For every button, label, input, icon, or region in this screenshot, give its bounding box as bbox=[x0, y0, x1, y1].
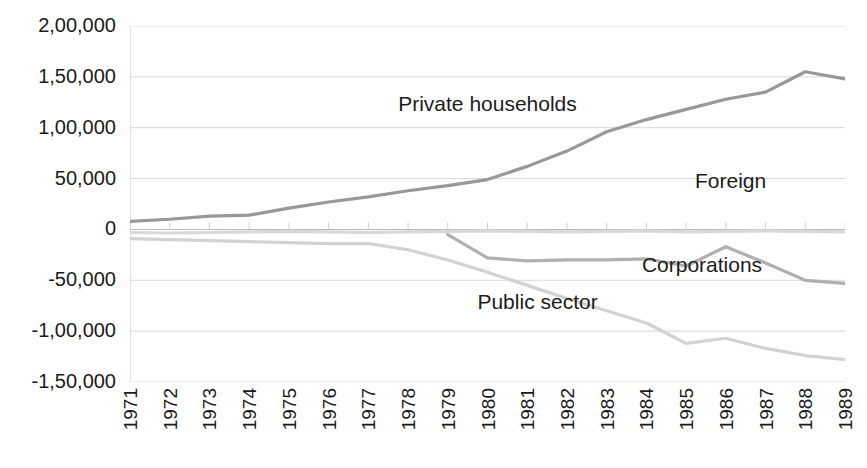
x-axis-tick-label: 1988 bbox=[795, 388, 817, 430]
y-axis-tick-label: -1,50,000 bbox=[0, 371, 116, 391]
line-chart: 2,00,0001,50,0001,00,00050,0000-50,000-1… bbox=[0, 0, 867, 468]
x-axis: 1971197219731974197519761977197819791980… bbox=[130, 388, 845, 468]
x-axis-tick-label: 1982 bbox=[557, 388, 579, 430]
y-axis: 2,00,0001,50,0001,00,00050,0000-50,000-1… bbox=[0, 0, 116, 468]
y-axis-tick-label: -50,000 bbox=[0, 269, 116, 289]
series-label: Corporations bbox=[642, 253, 762, 277]
y-axis-tick-label: 0 bbox=[0, 218, 116, 238]
x-axis-tick-label: 1985 bbox=[676, 388, 698, 430]
y-axis-tick-label: -1,00,000 bbox=[0, 320, 116, 340]
x-axis-tick-label: 1972 bbox=[160, 388, 182, 430]
plot-area bbox=[130, 26, 845, 382]
x-axis-tick-label: 1974 bbox=[239, 388, 261, 430]
series-line bbox=[130, 231, 845, 233]
x-axis-tick-label: 1986 bbox=[716, 388, 738, 430]
x-axis-tick-label: 1979 bbox=[438, 388, 460, 430]
x-axis-tick-label: 1978 bbox=[398, 388, 420, 430]
y-axis-tick-label: 1,50,000 bbox=[0, 66, 116, 86]
x-axis-tick-label: 1981 bbox=[517, 388, 539, 430]
plot-svg bbox=[130, 26, 845, 382]
x-axis-tick-label: 1983 bbox=[597, 388, 619, 430]
series-label: Public sector bbox=[477, 290, 597, 314]
x-axis-tick-label: 1976 bbox=[319, 388, 341, 430]
x-axis-tick-label: 1977 bbox=[358, 388, 380, 430]
series-label: Foreign bbox=[695, 169, 766, 193]
series-label: Private households bbox=[398, 92, 577, 116]
x-axis-tick-label: 1971 bbox=[120, 388, 142, 430]
y-axis-tick-label: 1,00,000 bbox=[0, 117, 116, 137]
x-axis-tick-label: 1980 bbox=[478, 388, 500, 430]
x-axis-tick-label: 1987 bbox=[756, 388, 778, 430]
y-axis-tick-label: 50,000 bbox=[0, 168, 116, 188]
y-axis-tick-label: 2,00,000 bbox=[0, 15, 116, 35]
x-axis-tick-label: 1973 bbox=[199, 388, 221, 430]
x-axis-tick-label: 1975 bbox=[279, 388, 301, 430]
x-axis-tick-label: 1984 bbox=[636, 388, 658, 430]
x-axis-tick-label: 1989 bbox=[835, 388, 857, 430]
